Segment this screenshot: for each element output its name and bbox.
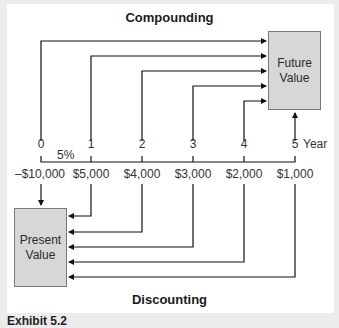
present-value-line1: Present [20,233,61,248]
cash-flow-0: –$10,000 [15,167,65,181]
year-axis-label: Year [303,137,327,151]
interest-rate-label: 5% [57,148,74,162]
year-3: 3 [190,137,197,151]
cash-flow-5: $1,000 [277,167,314,181]
future-value-box: Future Value [268,31,321,110]
year-2: 2 [139,137,146,151]
year-1: 1 [88,137,95,151]
year-4: 4 [241,137,248,151]
year-0: 0 [38,137,45,151]
cash-flow-4: $2,000 [226,167,263,181]
cash-flow-2: $4,000 [124,167,161,181]
present-value-line2: Value [20,248,61,263]
future-value-line1: Future [277,56,312,71]
present-value-box: Present Value [14,208,67,287]
exhibit-caption: Exhibit 5.2 [7,314,67,328]
cash-flow-1: $5,000 [73,167,110,181]
discounting-title: Discounting [0,292,339,307]
year-5: 5 [292,137,299,151]
cash-flow-3: $3,000 [175,167,212,181]
future-value-line2: Value [277,71,312,86]
compounding-title: Compounding [0,10,339,25]
